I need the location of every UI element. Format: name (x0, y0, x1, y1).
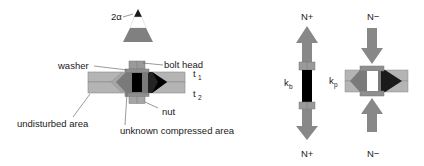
t2-label: t (193, 88, 196, 99)
nut-label: nut (162, 106, 176, 117)
arrow-down-icon (361, 28, 383, 64)
plate-top-force-label: N− (367, 11, 380, 22)
bolt-bottom-force-label: N+ (301, 148, 314, 159)
bolt-hole (367, 71, 378, 91)
arrow-down-icon (296, 109, 318, 140)
bolt-head-label: bolt head (164, 59, 203, 70)
bolt-shank (132, 73, 142, 92)
t1-subscript: 1 (198, 74, 202, 81)
arrow-up-icon (361, 98, 383, 132)
washer-top (125, 69, 149, 73)
cone-angle-label: 2α (111, 11, 122, 22)
bolt-stiffness-subscript: b (289, 83, 293, 90)
washer-label: washer (57, 60, 89, 71)
bolt-tension-model (296, 26, 318, 140)
bolt-shank-model (302, 70, 312, 102)
plate-bottom-force-label: N− (367, 148, 380, 159)
washer-bottom (125, 93, 149, 97)
plate-stiffness-subscript: p (334, 81, 338, 89)
arrow-up-icon (296, 26, 318, 63)
bolted-joint-diagram: 2α washer bolt head t 1 t 2 undisturb (0, 0, 424, 166)
cone-angle-icon (123, 9, 153, 42)
plate-compression-model (345, 28, 408, 132)
unknown-compressed-area-label: unknown compressed area (120, 125, 235, 136)
bolt-top-force-label: N+ (301, 11, 314, 22)
undisturbed-area-label: undisturbed area (17, 118, 89, 129)
t2-subscript: 2 (198, 94, 202, 101)
t1-label: t (193, 68, 196, 79)
